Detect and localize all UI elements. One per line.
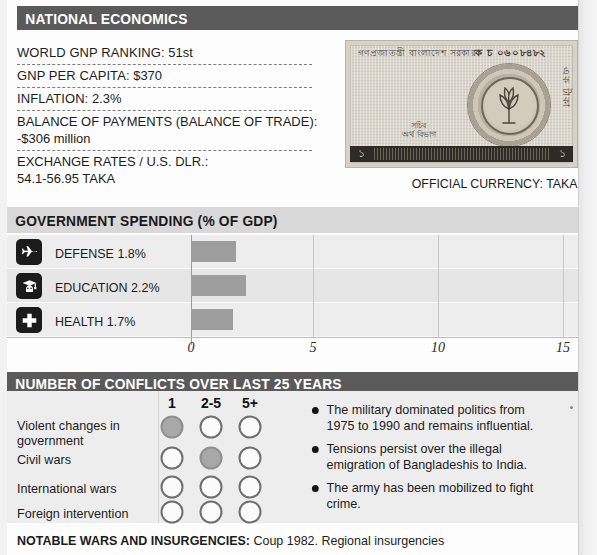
left-page-edge: [0, 0, 7, 555]
stat-value: $370: [133, 68, 162, 83]
section-title-spending: GOVERNMENT SPENDING (% OF GDP): [7, 212, 278, 229]
conflicts-row-label-international-wars: International wars: [17, 481, 117, 496]
stat-row-balance-of-payments: BALANCE OF PAYMENTS (BALANCE OF TRADE): …: [17, 111, 312, 151]
footer-text: Coup 1982. Regional insurgencies: [253, 533, 444, 548]
stat-value: 54.1-56.95 TAKA: [17, 170, 300, 187]
graduation-cap-glyph: [20, 277, 39, 296]
stat-line: INFLATION: 2.3%: [17, 90, 300, 107]
banknote-signature-name: সচিব: [402, 121, 436, 130]
conflicts-row-label-civil-wars: Civil wars: [17, 452, 71, 467]
conflicts-column-header-5plus: 5+: [242, 395, 258, 411]
conflict-dot-empty: [239, 501, 262, 524]
conflict-dot-empty: [161, 476, 184, 499]
conflicts-bullet-list: The military dominated politics from 197…: [310, 402, 560, 519]
stat-line: WORLD GNP RANKING: 51st: [17, 44, 300, 61]
infographic-page: NATIONAL ECONOMICS WORLD GNP RANKING: 51…: [0, 0, 597, 555]
section-title-conflicts: NUMBER OF CONFLICTS OVER LAST 25 YEARS: [7, 375, 342, 392]
stat-label: WORLD GNP RANKING:: [17, 45, 165, 60]
page-gutter: [578, 0, 597, 555]
conflict-dot-filled: [200, 447, 223, 470]
official-currency-caption: OFFICIAL CURRENCY: TAKA: [412, 176, 578, 191]
conflicts-row-label-foreign-intervention: Foreign intervention: [17, 506, 128, 521]
banknote-serial: ক চ ০৬০৮৪৮২: [475, 45, 547, 62]
conflict-dot-filled: [161, 416, 184, 439]
stat-label: EXCHANGE RATES / U.S. DLR.:: [17, 153, 300, 170]
stat-row-gnp-ranking: WORLD GNP RANKING: 51st: [17, 42, 312, 65]
banknote-corner-value-right: ১: [551, 146, 573, 162]
bullet-item: The army has been mobilized to fight cri…: [310, 480, 553, 512]
stat-row-inflation: INFLATION: 2.3%: [17, 88, 312, 111]
banknote-medallion: [467, 63, 551, 147]
conflict-dot-empty: [161, 501, 184, 524]
conflict-dot-empty: [200, 416, 223, 439]
medical-cross-glyph: [20, 311, 39, 330]
xtick-5: 5: [310, 340, 317, 356]
water-lily-icon: [494, 85, 524, 125]
stat-value: 2.3%: [92, 91, 122, 106]
economics-stats-list: WORLD GNP RANKING: 51st GNP PER CAPITA: …: [17, 42, 312, 190]
conflicts-row-label-violent-changes: Violent changes in government: [17, 418, 120, 448]
medical-cross-icon: [16, 307, 42, 333]
graduation-cap-icon: [16, 273, 42, 299]
xtick-15: 15: [556, 340, 570, 356]
chart-bar-health: [191, 309, 233, 330]
banknote-strip-texture: [374, 148, 549, 160]
conflicts-column-header-2-5: 2-5: [201, 395, 221, 411]
stat-value: -$306 million: [17, 130, 300, 147]
banknote-signature: সচিব অর্থ বিভাগ: [402, 121, 436, 139]
stat-row-gnp-per-capita: GNP PER CAPITA: $370: [17, 65, 312, 88]
section-title-economics: NATIONAL ECONOMICS: [17, 10, 188, 27]
chart-x-axis: [7, 337, 578, 338]
banknote-corner-value-left: ১: [350, 146, 372, 162]
chart-bar-defense: [191, 241, 236, 262]
section-header-national-economics: NATIONAL ECONOMICS: [17, 6, 578, 30]
stat-row-exchange-rates: EXCHANGE RATES / U.S. DLR.: 54.1-56.95 T…: [17, 151, 312, 190]
chart-label-health: HEALTH 1.7%: [55, 314, 135, 329]
page-gutter-edge: [578, 0, 579, 555]
banknote-script-top: গণপ্রজাতন্ত্রী বাংলাদেশ সরকার: [358, 46, 476, 61]
xtick-0: 0: [188, 340, 195, 356]
chart-bar-education: [191, 275, 246, 296]
government-spending-chart: DEFENSE 1.8% EDUCATION 2.2% HEALTH 1.7%: [7, 235, 578, 337]
conflict-dot-empty: [200, 476, 223, 499]
gridline-5: [313, 235, 314, 337]
conflict-dot-empty: [239, 476, 262, 499]
banknote-denomination-vertical: এক টাকা: [557, 67, 574, 108]
scan-speck: [570, 406, 573, 409]
bullet-item: The military dominated politics from 197…: [310, 402, 553, 434]
stat-label: GNP PER CAPITA:: [17, 68, 130, 83]
conflict-dot-empty: [239, 416, 262, 439]
conflict-dot-empty: [239, 447, 262, 470]
banknote-signature-title: অর্থ বিভাগ: [402, 130, 436, 139]
stat-line: GNP PER CAPITA: $370: [17, 67, 300, 84]
banknote-body: গণপ্রজাতন্ত্রী বাংলাদেশ সরকার ক চ ০৬০৮৪৮…: [345, 40, 578, 168]
banknote-image: গণপ্রজাতন্ত্রী বাংলাদেশ সরকার ক চ ০৬০৮৪৮…: [345, 40, 578, 168]
fighter-jet-glyph: [20, 243, 39, 262]
conflict-dot-empty: [161, 447, 184, 470]
conflicts-divider: [158, 391, 159, 523]
gridline-10: [438, 235, 439, 337]
conflict-dot-empty: [200, 501, 223, 524]
conflicts-column-header-1: 1: [168, 395, 176, 411]
chart-label-education: EDUCATION 2.2%: [55, 280, 159, 295]
notable-wars-footer: NOTABLE WARS AND INSURGENCIES: Coup 1982…: [17, 533, 444, 548]
bullet-item: Tensions persist over the illegal emigra…: [310, 441, 553, 473]
fighter-jet-icon: [16, 239, 42, 265]
section-header-government-spending: GOVERNMENT SPENDING (% OF GDP): [7, 207, 578, 233]
footer-label: NOTABLE WARS AND INSURGENCIES:: [17, 533, 250, 548]
chart-label-defense: DEFENSE 1.8%: [55, 246, 146, 261]
xtick-10: 10: [431, 340, 445, 356]
stat-label: BALANCE OF PAYMENTS (BALANCE OF TRADE):: [17, 113, 300, 130]
gridline-15: [563, 235, 564, 337]
stat-value: 51st: [168, 45, 193, 60]
stat-label: INFLATION:: [17, 91, 88, 106]
